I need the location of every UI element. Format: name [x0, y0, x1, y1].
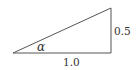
right-triangle	[13, 8, 111, 53]
angle-alpha-label: α	[37, 40, 45, 54]
adjacent-side-label: 1.0	[63, 56, 80, 68]
opposite-side-label: 0.5	[114, 25, 131, 37]
triangle-diagram: α 0.5 1.0	[0, 0, 137, 70]
